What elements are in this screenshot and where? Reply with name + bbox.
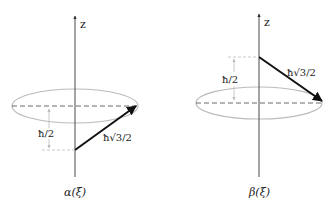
alpha-height-label: ħ/2	[38, 128, 54, 139]
alpha-diagram: z ħ/2 ħ√3/2 α(ξ)	[12, 16, 138, 199]
beta-vector-label: ħ√3/2	[287, 67, 316, 78]
beta-diagram: z ħ/2 ħ√3/2 β(ξ)	[196, 14, 322, 199]
alpha-vector-label: ħ√3/2	[103, 132, 132, 143]
beta-caption: β(ξ)	[248, 186, 270, 199]
beta-spin-vector	[259, 57, 322, 101]
beta-height-label: ħ/2	[222, 74, 238, 85]
alpha-z-label: z	[80, 18, 86, 31]
spin-diagrams: z ħ/2 ħ√3/2 α(ξ) z ħ/2 ħ√3/2 β(ξ)	[0, 0, 333, 205]
alpha-caption: α(ξ)	[64, 186, 86, 199]
beta-z-label: z	[264, 16, 270, 29]
alpha-spin-vector	[75, 106, 136, 150]
